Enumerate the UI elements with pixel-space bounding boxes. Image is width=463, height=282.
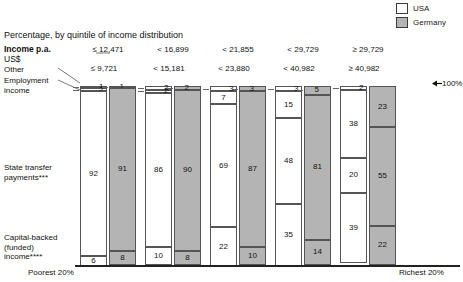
bar-segment-value: 55	[378, 172, 387, 180]
bar-segment-value: 10	[154, 252, 163, 260]
segment-tick	[73, 90, 79, 91]
bar-segment-value: 8	[120, 254, 124, 262]
segment-tick	[333, 88, 339, 89]
bar-segment-germany-q2-state-transfer: 90	[174, 90, 201, 251]
bar-segment-usa-q3-state-transfer: 69	[210, 104, 237, 228]
segment-tick	[167, 88, 173, 89]
bar-segment-value: 10	[248, 252, 257, 260]
bar-segment-value: 86	[154, 166, 163, 174]
bar-segment-usa-q4-employment-income: 15	[275, 91, 302, 118]
bar-segment-value: 69	[219, 162, 228, 170]
bar-segment-value: 38	[349, 120, 358, 128]
segment-tick	[297, 90, 303, 91]
bar-segment-usa-q3-employment-income: 7	[210, 91, 237, 104]
bar-segment-usa-q2-state-transfer: 86	[145, 93, 172, 247]
segment-tick	[138, 91, 144, 92]
bar-segment-value: 8	[185, 254, 189, 262]
bar-segment-value: 20	[349, 171, 358, 179]
bar-segment-usa-q2-capital-backed: 10	[145, 247, 172, 265]
bar-segment-germany-q3-capital-backed: 10	[239, 247, 266, 265]
bar-segment-usa-q5-state-transfer: 20	[340, 158, 367, 194]
segment-tick	[203, 89, 209, 90]
income-band-usa-q5: ≥ 29,729	[328, 45, 408, 54]
bar-segment-germany-q4-capital-backed: 14	[304, 240, 331, 265]
bar-segment-value: 91	[118, 165, 127, 173]
chart-plot-area: 1122926222286103376922331548352238203911…	[0, 0, 463, 282]
bar-segment-usa-q5-capital-backed: 39	[340, 193, 367, 263]
bar-segment-value: 15	[284, 101, 293, 109]
axis-label-poorest: Poorest 20%	[28, 268, 74, 277]
marker-100-label: 100%	[442, 79, 462, 88]
baseline-axis	[75, 265, 460, 267]
bar-segment-value-external-germany-q4-other: 5	[315, 85, 319, 94]
axis-label-richest: Richest 20%	[399, 268, 444, 277]
segment-tick	[73, 87, 79, 88]
bar-segment-usa-q1-state-transfer: 92	[80, 91, 107, 256]
bar-segment-value: 7	[221, 94, 225, 102]
bar-segment-germany-q1-capital-backed: 8	[109, 251, 136, 265]
bar-segment-value: 48	[284, 157, 293, 165]
bar-segment-usa-q4-capital-backed: 35	[275, 204, 302, 267]
bar-segment-germany-q3-state-transfer: 87	[239, 91, 266, 247]
bar-segment-value: 81	[313, 163, 322, 171]
bar-segment-value: 92	[89, 170, 98, 178]
bar-segment-value: 39	[349, 224, 358, 232]
bar-segment-usa-q3-capital-backed: 22	[210, 227, 237, 266]
bar-segment-value: 87	[248, 165, 257, 173]
income-band-germany-q5: ≥ 40,982	[324, 64, 404, 73]
marker-100-percent: 100%	[432, 79, 462, 88]
bar-segment-value: 35	[284, 231, 293, 239]
segment-tick	[102, 87, 108, 88]
bar-segment-value: 22	[378, 241, 387, 249]
bar-segment-germany-q2-capital-backed: 8	[174, 251, 201, 265]
segment-tick	[268, 89, 274, 90]
bar-segment-value: 23	[378, 103, 387, 111]
bar-segment-germany-q4-state-transfer: 81	[304, 95, 331, 240]
bar-segment-usa-q5-employment-income: 38	[340, 90, 367, 158]
segment-tick	[138, 88, 144, 89]
bar-segment-value: 90	[183, 166, 192, 174]
segment-tick	[232, 89, 238, 90]
bar-segment-germany-q5-state-transfer: 55	[369, 127, 396, 225]
bar-segment-value: 22	[219, 243, 228, 251]
bar-segment-germany-q5-capital-backed: 22	[369, 226, 396, 265]
arrow-left-icon	[432, 80, 442, 87]
bar-segment-value: 14	[313, 248, 322, 256]
bar-segment-germany-q5-employment-income: 23	[369, 86, 396, 127]
bar-segment-usa-q4-state-transfer: 48	[275, 118, 302, 204]
bar-segment-germany-q1-state-transfer: 91	[109, 88, 136, 251]
